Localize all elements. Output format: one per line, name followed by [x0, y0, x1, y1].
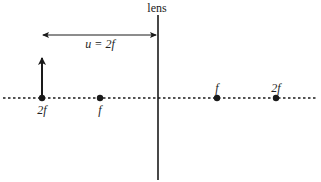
distance-label: u = 2f: [85, 37, 116, 51]
label-2f-right: 2f: [271, 81, 282, 95]
point-f-right: [214, 95, 220, 101]
label-2f-left: 2f: [37, 103, 48, 117]
label-f-right: f: [215, 81, 220, 95]
lens-diagram: lens u = 2f 2f f f 2f: [0, 0, 321, 182]
point-2f-right: [273, 95, 279, 101]
label-f-left: f: [98, 103, 103, 117]
point-2f-left: [39, 95, 45, 101]
lens-label: lens: [147, 1, 167, 15]
point-f-left: [97, 95, 103, 101]
